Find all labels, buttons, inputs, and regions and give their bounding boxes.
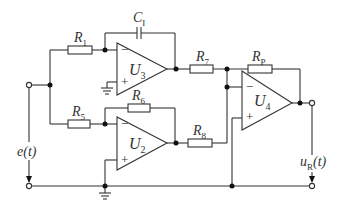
minus-sign-u4: − [246, 80, 253, 93]
junction-node [48, 83, 53, 88]
minus-sign-u3: − [121, 43, 128, 56]
label-output-signal: uR(t) [300, 155, 326, 172]
input-terminal-ground [26, 183, 31, 188]
label-r8: R8 [193, 124, 206, 141]
junction-node [230, 184, 235, 189]
label-u3: U3 [129, 62, 146, 81]
junction-node [298, 101, 303, 106]
minus-sign-u2: − [121, 117, 128, 130]
input-terminal [26, 82, 31, 87]
circuit-wiring [0, 0, 345, 212]
plus-sign-u4: + [246, 110, 253, 123]
junction-node [103, 48, 108, 53]
junction-node [225, 67, 230, 72]
label-r5: R5 [72, 105, 85, 122]
label-u2: U2 [129, 136, 146, 155]
plus-sign-u2: + [121, 153, 128, 166]
label-r1: R1 [74, 31, 87, 48]
junction-node [174, 141, 179, 146]
junction-node [174, 67, 179, 72]
label-rp: RP [252, 50, 266, 67]
arrow-down-icon-input [26, 176, 32, 183]
junction-node [103, 184, 108, 189]
label-input-signal: e(t) [17, 145, 36, 159]
arrow-down-icon-output [309, 176, 315, 183]
output-terminal-ground [309, 183, 314, 188]
junction-node [103, 122, 108, 127]
label-c1: CI [133, 11, 145, 28]
plus-sign-u3: + [121, 75, 128, 88]
output-terminal [309, 100, 314, 105]
label-r6: R6 [132, 89, 145, 106]
label-u4: U4 [254, 93, 271, 112]
circuit-diagram: R1 CI R7 RP R5 R6 R8 U3 U2 U4 − + − + − … [0, 0, 345, 212]
label-r7: R7 [196, 50, 209, 67]
junction-node [225, 85, 230, 90]
ground-icon-u3 [101, 88, 113, 94]
